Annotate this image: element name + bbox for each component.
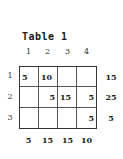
row-total-1: 15 — [102, 72, 120, 82]
cell-r2-c4: 5 — [77, 87, 96, 107]
cell-r3-c2 — [39, 108, 58, 128]
cell-r1-c3 — [58, 67, 77, 87]
row-header-3: 3 — [6, 113, 14, 122]
table-title: Table 1 — [22, 31, 68, 42]
cell-r1-c1: 5 — [20, 67, 39, 87]
row-total-3: 5 — [102, 113, 120, 123]
column-total-2: 15 — [38, 135, 57, 145]
cell-r1-c2: 10 — [39, 67, 58, 87]
cell-r2-c3: 15 — [58, 87, 77, 107]
column-header-1: 1 — [19, 47, 38, 56]
row-header-2: 2 — [6, 92, 14, 101]
row-total-2: 25 — [102, 92, 120, 102]
column-header-4: 4 — [77, 47, 96, 56]
cell-r3-c4: 5 — [77, 108, 96, 128]
cell-r2-c1 — [20, 87, 39, 107]
column-total-3: 15 — [58, 135, 77, 145]
column-total-1: 5 — [19, 135, 38, 145]
cell-r3-c1 — [20, 108, 39, 128]
column-header-2: 2 — [38, 47, 57, 56]
row-header-1: 1 — [6, 71, 14, 80]
data-grid: 5 10 5 15 5 5 — [19, 66, 97, 129]
cell-r3-c3 — [58, 108, 77, 128]
column-header-3: 3 — [58, 47, 77, 56]
cell-r1-c4 — [77, 67, 96, 87]
cell-r2-c2: 5 — [39, 87, 58, 107]
column-total-4: 10 — [77, 135, 96, 145]
